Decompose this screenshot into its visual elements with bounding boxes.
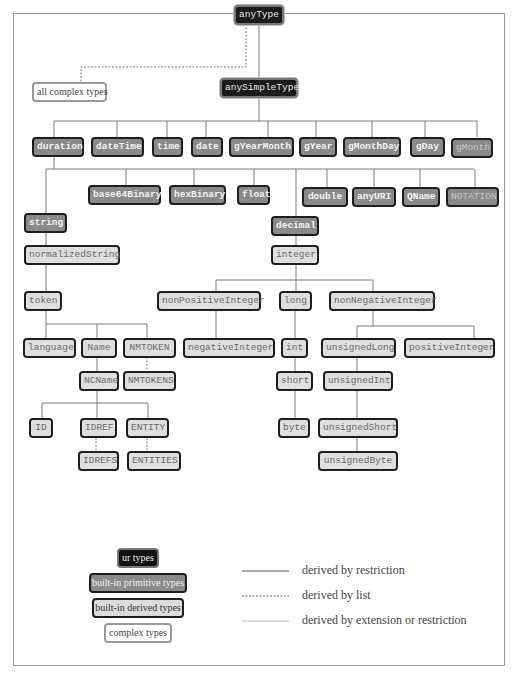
node-entity: ENTITY [126, 418, 169, 438]
node-all-complex-types: all complex types [32, 82, 107, 102]
node-base64binary: base64Binary [88, 185, 161, 205]
node-gmonth: gMonth [451, 138, 493, 158]
node-float: float [237, 185, 270, 205]
node-datetime: dateTime [91, 137, 144, 157]
node-gyear: gYear [299, 137, 337, 157]
node-anysimpletype: anySimpleType [220, 78, 298, 98]
node-idref: IDREF [80, 418, 117, 438]
legend-ur-types: ur types [117, 548, 159, 568]
node-anytype: anyType [234, 5, 284, 25]
legend-restriction-label: derived by restriction [302, 563, 405, 578]
node-positiveinteger: positiveInteger [404, 338, 495, 358]
node-integer: integer [271, 245, 319, 265]
node-gday: gDay [410, 137, 445, 157]
node-gyearmonth: gYearMonth [229, 137, 294, 157]
node-nmtoken: NMTOKEN [123, 338, 176, 358]
node-unsignedint: unsignedInt [323, 371, 393, 391]
node-short: short [276, 371, 313, 391]
node-id: ID [29, 418, 53, 438]
node-entities: ENTITIES [127, 451, 181, 471]
node-nonnegativeinteger: nonNegativeInteger [329, 291, 435, 311]
node-time: time [152, 137, 183, 157]
node-decimal: decimal [271, 216, 319, 236]
node-language: language [23, 338, 76, 358]
node-date: date [191, 137, 223, 157]
node-normalizedstring: normalizedString [24, 245, 120, 265]
node-string: string [24, 213, 67, 233]
legend-derived-types: built-in derived types [92, 598, 184, 618]
node-unsignedbyte: unsignedByte [318, 451, 398, 471]
node-long: long [279, 291, 312, 311]
node-idrefs: IDREFS [78, 451, 119, 471]
node-int: int [281, 338, 308, 358]
node-notation: NOTATION [446, 187, 499, 207]
node-negativeinteger: negativeInteger [183, 338, 275, 358]
legend-primitive-types: built-in primitive types [89, 573, 187, 593]
legend-complex-types: complex types [104, 623, 172, 643]
node-ncname: NCName [79, 371, 119, 391]
node-token: token [24, 291, 62, 311]
node-unsignedshort: unsignedShort [318, 418, 398, 438]
node-hexbinary: hexBinary [169, 185, 226, 205]
node-anyuri: anyURI [352, 187, 396, 207]
node-byte: byte [278, 418, 310, 438]
node-double: double [302, 187, 348, 207]
node-nonpositiveinteger: nonPositiveInteger [157, 291, 261, 311]
node-qname: QName [402, 187, 440, 207]
legend-extension-label: derived by extension or restriction [302, 613, 467, 628]
node-duration: duration [32, 137, 84, 157]
legend-list-label: derived by list [302, 588, 371, 603]
node-unsignedlong: unsignedLong [321, 338, 396, 358]
node-gmonthday: gMonthDay [343, 137, 401, 157]
node-name: Name [81, 338, 117, 358]
node-nmtokens: NMTOKENS [123, 371, 176, 391]
